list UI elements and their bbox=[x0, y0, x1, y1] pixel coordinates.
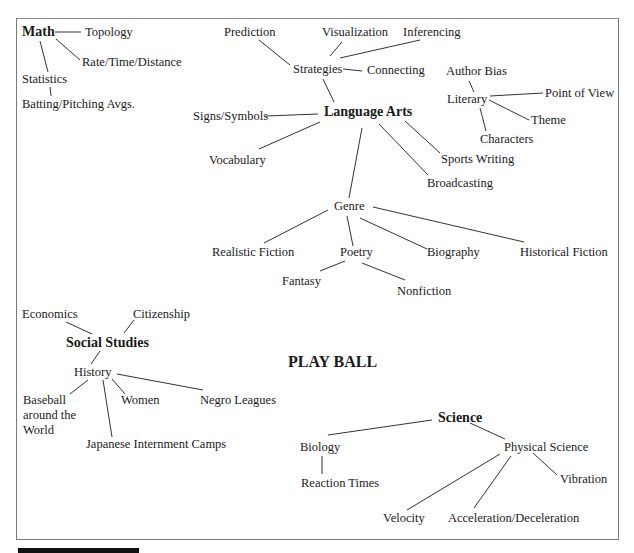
node-vocabulary: Vocabulary bbox=[209, 153, 266, 167]
link-citizenship-social bbox=[124, 320, 134, 333]
link-genre-historical bbox=[373, 207, 524, 242]
link-prediction-strategies bbox=[259, 40, 290, 65]
node-biology: Biology bbox=[300, 440, 340, 454]
node-point-of-view: Point of View bbox=[545, 86, 614, 100]
node-prediction: Prediction bbox=[224, 25, 275, 39]
link-genre-poetry bbox=[347, 216, 353, 246]
link-signs-languagearts bbox=[266, 114, 318, 116]
link-science-physical bbox=[470, 423, 505, 439]
link-vocab-languagearts bbox=[259, 122, 320, 149]
link-physical-velocity bbox=[407, 454, 500, 510]
link-statistics-batting bbox=[50, 87, 51, 96]
node-baseball-around-world: Baseball around the World bbox=[23, 393, 103, 438]
node-negro-leagues: Negro Leagues bbox=[200, 393, 276, 407]
link-poetry-nonfiction bbox=[362, 263, 405, 280]
link-genre-realistic bbox=[264, 210, 328, 243]
node-visualization: Visualization bbox=[322, 25, 388, 39]
link-history-baseball bbox=[70, 380, 88, 394]
link-inferencing-strategies bbox=[340, 40, 420, 58]
link-history-negro bbox=[117, 374, 203, 390]
node-topology: Topology bbox=[85, 25, 133, 39]
link-literary-theme bbox=[489, 100, 529, 120]
link-economics-social bbox=[66, 322, 92, 334]
node-language-arts: Language Arts bbox=[324, 105, 412, 119]
node-history: History bbox=[74, 365, 112, 379]
link-languagearts-broadcasting bbox=[379, 124, 428, 175]
link-poetry-fantasy bbox=[320, 261, 345, 271]
node-math: Math bbox=[22, 25, 55, 39]
node-japanese-internment: Japanese Internment Camps bbox=[86, 437, 226, 451]
node-genre: Genre bbox=[334, 199, 365, 213]
node-rate-time-distance: Rate/Time/Distance bbox=[82, 55, 182, 69]
node-realistic-fiction: Realistic Fiction bbox=[212, 245, 294, 259]
link-languagearts-sports bbox=[405, 121, 440, 153]
link-social-history bbox=[91, 351, 100, 364]
node-citizenship: Citizenship bbox=[133, 307, 190, 321]
node-acceleration-deceleration: Acceleration/Deceleration bbox=[448, 511, 579, 525]
link-literary-pov bbox=[490, 93, 543, 96]
node-biography: Biography bbox=[427, 245, 480, 259]
node-literary: Literary bbox=[447, 92, 487, 106]
node-batting-pitching: Batting/Pitching Avgs. bbox=[22, 97, 135, 111]
link-strategies-connecting bbox=[343, 69, 362, 71]
node-velocity: Velocity bbox=[383, 511, 425, 525]
node-characters: Characters bbox=[480, 132, 533, 146]
node-fantasy: Fantasy bbox=[282, 274, 321, 288]
node-theme: Theme bbox=[531, 113, 566, 127]
link-math-statistics bbox=[40, 41, 48, 72]
link-languagearts-genre bbox=[349, 128, 362, 198]
node-economics: Economics bbox=[22, 307, 78, 321]
link-strategies-languagearts bbox=[323, 79, 334, 102]
node-reaction-times: Reaction Times bbox=[301, 476, 379, 490]
link-history-japanese bbox=[103, 380, 112, 437]
node-science: Science bbox=[438, 411, 482, 425]
node-nonfiction: Nonfiction bbox=[397, 284, 451, 298]
node-connecting: Connecting bbox=[367, 63, 425, 77]
node-broadcasting: Broadcasting bbox=[427, 176, 493, 190]
link-physical-acceleration bbox=[474, 456, 511, 508]
node-sports-writing: Sports Writing bbox=[441, 152, 514, 166]
node-poetry: Poetry bbox=[340, 245, 373, 259]
node-author-bias: Author Bias bbox=[446, 64, 507, 78]
node-women: Women bbox=[121, 393, 160, 407]
link-authorbias-literary bbox=[469, 81, 474, 92]
link-science-biology bbox=[328, 420, 432, 435]
link-visualization-strategies bbox=[330, 42, 342, 56]
node-inferencing: Inferencing bbox=[403, 25, 461, 39]
link-math-rate bbox=[56, 39, 80, 60]
link-physical-vibration bbox=[533, 453, 557, 475]
node-physical-science: Physical Science bbox=[504, 440, 588, 454]
diagram-title: PLAY BALL bbox=[288, 355, 377, 369]
node-strategies: Strategies bbox=[293, 62, 342, 76]
node-statistics: Statistics bbox=[22, 72, 67, 86]
node-historical-fiction: Historical Fiction bbox=[520, 245, 608, 259]
node-vibration: Vibration bbox=[560, 472, 607, 486]
link-literary-characters bbox=[480, 108, 486, 131]
node-signs-symbols: Signs/Symbols bbox=[193, 109, 268, 123]
node-social-studies: Social Studies bbox=[66, 336, 149, 350]
link-history-women bbox=[112, 379, 125, 394]
